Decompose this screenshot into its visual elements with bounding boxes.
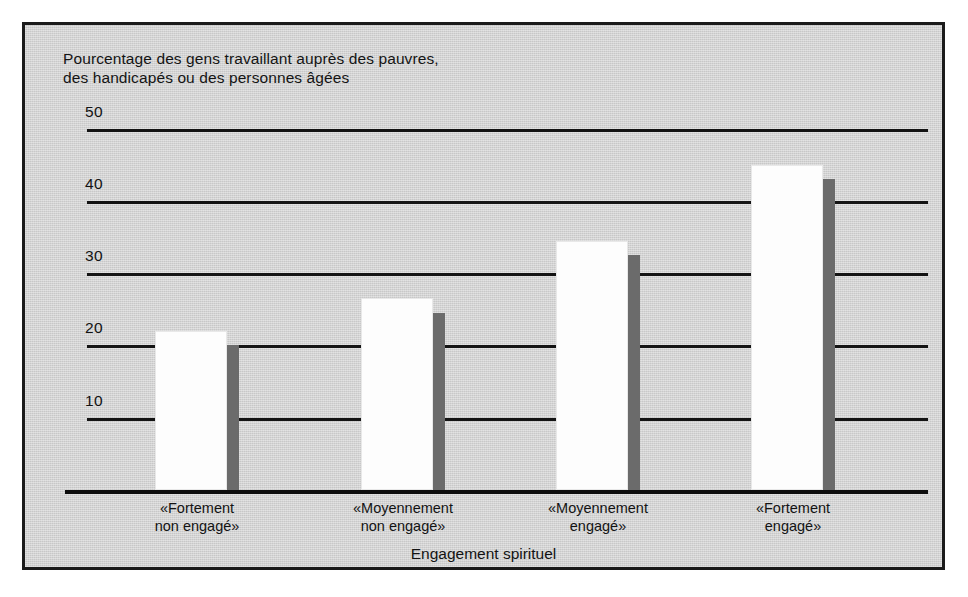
bar[interactable] <box>361 298 433 490</box>
bar[interactable] <box>556 241 628 490</box>
bar[interactable] <box>155 331 227 490</box>
x-axis-category-label: «Fortement non engagé» <box>103 500 291 535</box>
y-axis-tick-label: 20 <box>85 319 103 337</box>
plot-area: 1020304050«Fortement non engagé»«Moyenne… <box>25 25 942 567</box>
chart-page: Pourcentage des gens travaillant auprès … <box>0 0 968 597</box>
bar-group <box>361 298 445 490</box>
x-axis-category-label: «Fortement engagé» <box>699 500 887 535</box>
chart-title: Pourcentage des gens travaillant auprès … <box>63 49 763 87</box>
gridline-50 <box>87 129 928 132</box>
bar-shadow <box>628 255 640 490</box>
bar-shadow <box>227 345 239 490</box>
y-axis-tick-label: 10 <box>85 392 103 410</box>
bar-shadow <box>433 313 445 490</box>
bar[interactable] <box>751 165 823 490</box>
x-axis-category-label: «Moyennement non engagé» <box>309 500 497 535</box>
y-axis-tick-label: 50 <box>85 103 103 121</box>
y-axis-tick-label: 30 <box>85 247 103 265</box>
x-axis-baseline <box>65 490 928 494</box>
y-axis-tick-label: 40 <box>85 175 103 193</box>
bar-group <box>751 165 835 490</box>
bar-group <box>556 241 640 490</box>
chart-frame: Pourcentage des gens travaillant auprès … <box>22 22 945 570</box>
bar-shadow <box>823 179 835 490</box>
bar-group <box>155 331 239 490</box>
x-axis-category-label: «Moyennement engagé» <box>504 500 692 535</box>
x-axis-title: Engagement spirituel <box>25 545 942 563</box>
